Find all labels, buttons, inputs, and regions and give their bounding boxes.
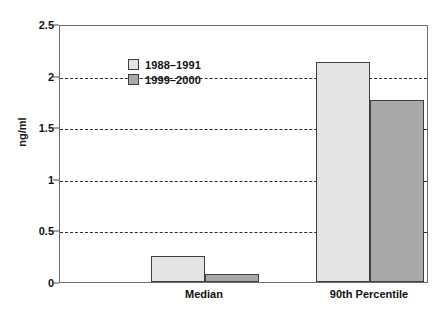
- legend-label: 1999–2000: [145, 74, 201, 86]
- chart-legend: 1988–1991 1999–2000: [128, 58, 201, 86]
- bar: [370, 100, 424, 282]
- gridline: [60, 78, 427, 79]
- y-axis-tick-label: 1: [8, 174, 54, 186]
- chart-figure: ng/ml 00.511.522.5 Median90th Percentile…: [0, 0, 448, 313]
- bar: [205, 274, 259, 282]
- y-axis-tick-label: 0: [8, 277, 54, 289]
- y-axis-tick-label: 2.5: [8, 19, 54, 31]
- legend-item: 1999–2000: [128, 73, 201, 86]
- bar: [316, 62, 370, 282]
- x-axis-tick-label: 90th Percentile: [330, 288, 408, 300]
- y-axis-tick-label: 2: [8, 71, 54, 83]
- legend-item: 1988–1991: [128, 58, 201, 71]
- legend-label: 1988–1991: [145, 59, 201, 71]
- legend-swatch-icon: [128, 59, 139, 70]
- bar: [151, 256, 205, 282]
- plot-inner: [60, 26, 427, 282]
- plot-area: [59, 25, 428, 283]
- x-axis-tick-label: Median: [185, 288, 223, 300]
- legend-swatch-icon: [128, 74, 139, 85]
- y-axis-tick-label: 1.5: [8, 122, 54, 134]
- y-axis-tick-label: 0.5: [8, 225, 54, 237]
